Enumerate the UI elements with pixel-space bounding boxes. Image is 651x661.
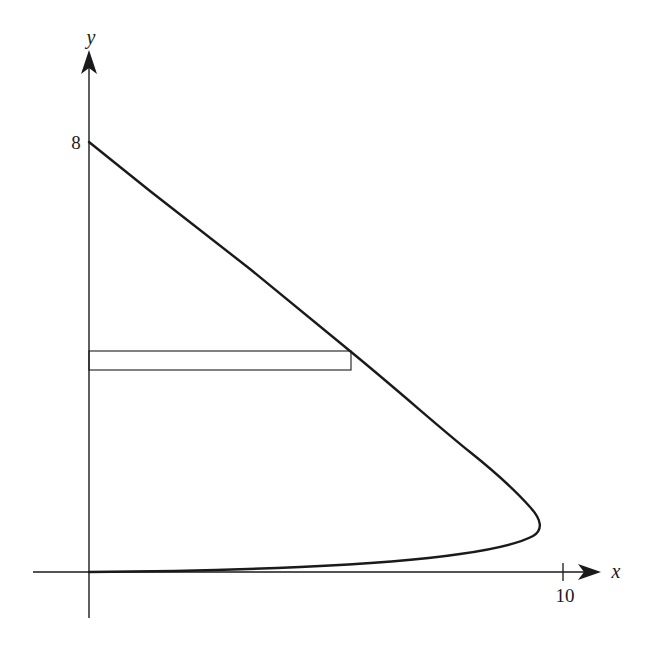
y-axis-label: y <box>85 26 96 49</box>
representative-strip <box>89 351 351 370</box>
x-axis-label: x <box>611 560 621 582</box>
boundary-curve <box>89 142 540 572</box>
region-diagram: 10 x y 8 <box>0 0 651 661</box>
y-tick-label: 8 <box>71 132 81 153</box>
x-tick-label: 10 <box>556 585 575 606</box>
